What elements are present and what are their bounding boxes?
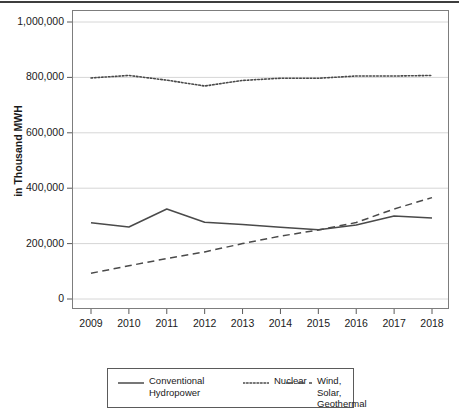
x-axis-tick-label: 2014 — [260, 317, 300, 329]
y-axis-title: in Thousand MWH — [12, 86, 24, 216]
x-axis-tick-label: 2016 — [336, 317, 376, 329]
y-axis-tick-label: 0 — [2, 292, 64, 304]
legend-line-sample-solid — [118, 375, 144, 387]
y-axis-tick-label: 400,000 — [2, 181, 64, 193]
x-axis-ticks — [91, 309, 432, 314]
legend-item-label: Wind, Solar, Geothermal — [317, 375, 367, 410]
chart-container: in Thousand MWH 0200,000400,000600,00080… — [0, 0, 459, 416]
x-axis-tick-label: 2015 — [298, 317, 338, 329]
legend-item-label: Conventional Hydropower — [149, 375, 204, 398]
y-axis-tick-label: 200,000 — [2, 237, 64, 249]
legend-item-2[interactable]: Wind, Solar, Geothermal — [286, 375, 367, 410]
x-axis-tick-label: 2010 — [109, 317, 149, 329]
x-axis-tick-label: 2017 — [374, 317, 414, 329]
legend-line-sample-dotted — [243, 375, 269, 387]
x-axis-tick-label: 2011 — [147, 317, 187, 329]
y-axis-tick-label: 800,000 — [2, 70, 64, 82]
y-axis-tick-label: 600,000 — [2, 126, 64, 138]
x-axis-tick-label: 2018 — [412, 317, 452, 329]
x-axis-tick-label: 2009 — [71, 317, 111, 329]
chart-legend: Conventional HydropowerNuclearWind, Sola… — [107, 368, 354, 408]
plot-area — [72, 10, 449, 309]
top-divider-rule — [0, 1, 459, 3]
y-axis-tick-label: 1,000,000 — [2, 15, 64, 27]
legend-item-0[interactable]: Conventional Hydropower — [118, 375, 204, 398]
x-axis-tick-label: 2013 — [223, 317, 263, 329]
x-axis-tick-label: 2012 — [185, 317, 225, 329]
legend-line-sample-dashed — [286, 375, 312, 387]
